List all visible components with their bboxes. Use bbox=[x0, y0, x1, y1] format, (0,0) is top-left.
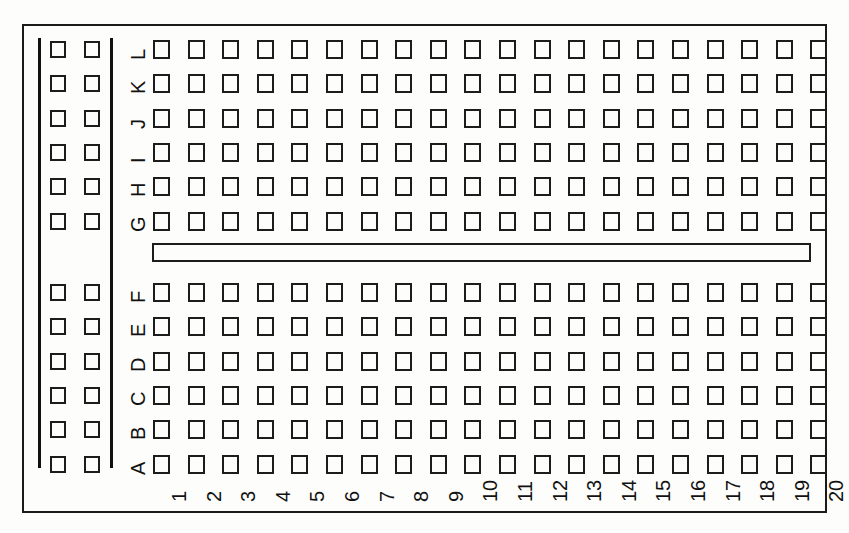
grid-hole bbox=[568, 212, 585, 231]
grid-hole bbox=[603, 352, 620, 371]
grid-hole bbox=[810, 109, 827, 128]
grid-hole bbox=[222, 212, 239, 231]
grid-hole bbox=[741, 143, 758, 162]
grid-hole bbox=[464, 386, 481, 405]
column-label-6: 6 bbox=[342, 491, 362, 502]
grid-hole bbox=[707, 352, 724, 371]
grid-hole bbox=[222, 317, 239, 336]
grid-hole bbox=[776, 177, 793, 196]
power-rail-hole bbox=[50, 178, 66, 195]
grid-hole bbox=[534, 352, 551, 371]
grid-hole bbox=[741, 455, 758, 474]
row-label-E: E bbox=[128, 324, 148, 337]
grid-hole bbox=[257, 420, 274, 439]
grid-hole bbox=[395, 177, 412, 196]
grid-hole bbox=[430, 109, 447, 128]
grid-hole bbox=[741, 109, 758, 128]
column-label-15: 15 bbox=[653, 480, 673, 502]
grid-hole bbox=[326, 212, 343, 231]
grid-hole bbox=[707, 40, 724, 59]
power-rail-hole bbox=[50, 284, 66, 301]
grid-hole bbox=[430, 317, 447, 336]
grid-hole bbox=[361, 177, 378, 196]
row-label-J: J bbox=[128, 119, 148, 129]
grid-hole bbox=[776, 212, 793, 231]
grid-hole bbox=[464, 455, 481, 474]
grid-hole bbox=[430, 40, 447, 59]
grid-hole bbox=[672, 352, 689, 371]
power-rail-hole bbox=[84, 456, 100, 473]
power-rail-hole bbox=[50, 144, 66, 161]
grid-hole bbox=[741, 74, 758, 93]
grid-hole bbox=[534, 40, 551, 59]
grid-hole bbox=[257, 317, 274, 336]
grid-hole bbox=[464, 352, 481, 371]
row-label-L: L bbox=[128, 49, 148, 60]
column-label-19: 19 bbox=[792, 480, 812, 502]
grid-hole bbox=[326, 283, 343, 302]
grid-hole bbox=[672, 74, 689, 93]
grid-hole bbox=[291, 109, 308, 128]
grid-hole bbox=[188, 109, 205, 128]
grid-hole bbox=[464, 74, 481, 93]
grid-hole bbox=[741, 420, 758, 439]
grid-hole bbox=[534, 212, 551, 231]
grid-hole bbox=[776, 317, 793, 336]
grid-hole bbox=[776, 283, 793, 302]
grid-hole bbox=[257, 455, 274, 474]
grid-hole bbox=[222, 109, 239, 128]
grid-hole bbox=[534, 455, 551, 474]
grid-hole bbox=[707, 420, 724, 439]
grid-hole bbox=[499, 455, 516, 474]
grid-hole bbox=[534, 283, 551, 302]
grid-hole bbox=[568, 386, 585, 405]
grid-hole bbox=[153, 74, 170, 93]
grid-hole bbox=[499, 177, 516, 196]
grid-hole bbox=[326, 420, 343, 439]
row-label-F: F bbox=[128, 291, 148, 303]
grid-hole bbox=[672, 212, 689, 231]
power-rail-hole bbox=[50, 456, 66, 473]
grid-hole bbox=[464, 420, 481, 439]
grid-hole bbox=[568, 143, 585, 162]
grid-hole bbox=[395, 317, 412, 336]
grid-hole bbox=[499, 283, 516, 302]
grid-hole bbox=[810, 420, 827, 439]
grid-hole bbox=[395, 420, 412, 439]
grid-hole bbox=[430, 212, 447, 231]
grid-hole bbox=[464, 143, 481, 162]
breadboard-diagram: LKJIHGFEDCBA 123456789101112131415161718… bbox=[0, 0, 849, 533]
grid-hole bbox=[707, 109, 724, 128]
grid-hole bbox=[430, 143, 447, 162]
power-rail-hole bbox=[84, 75, 100, 92]
grid-hole bbox=[810, 283, 827, 302]
grid-hole bbox=[707, 283, 724, 302]
grid-hole bbox=[810, 212, 827, 231]
power-rail-hole bbox=[50, 75, 66, 92]
grid-hole bbox=[707, 317, 724, 336]
grid-hole bbox=[464, 212, 481, 231]
grid-hole bbox=[395, 386, 412, 405]
grid-hole bbox=[603, 109, 620, 128]
grid-hole bbox=[153, 40, 170, 59]
grid-hole bbox=[464, 177, 481, 196]
power-rail-hole bbox=[50, 213, 66, 230]
grid-hole bbox=[776, 109, 793, 128]
grid-hole bbox=[361, 212, 378, 231]
grid-hole bbox=[291, 74, 308, 93]
grid-hole bbox=[810, 317, 827, 336]
grid-hole bbox=[257, 352, 274, 371]
grid-hole bbox=[810, 352, 827, 371]
grid-hole bbox=[534, 109, 551, 128]
column-label-18: 18 bbox=[757, 480, 777, 502]
grid-hole bbox=[222, 74, 239, 93]
grid-hole bbox=[291, 143, 308, 162]
power-rail-hole bbox=[84, 353, 100, 370]
grid-hole bbox=[672, 177, 689, 196]
grid-hole bbox=[395, 40, 412, 59]
power-rail-hole bbox=[50, 353, 66, 370]
grid-hole bbox=[326, 40, 343, 59]
grid-hole bbox=[707, 143, 724, 162]
grid-hole bbox=[776, 40, 793, 59]
grid-hole bbox=[361, 352, 378, 371]
